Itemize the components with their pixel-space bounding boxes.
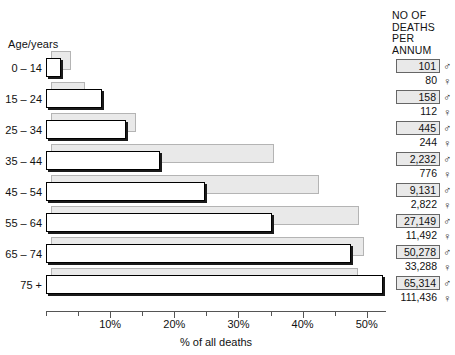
x-axis-tick [335, 311, 336, 316]
header-line-1: NO OF [392, 10, 455, 22]
x-axis-tick [174, 311, 175, 318]
deaths-per-annum-column: NO OF DEATHS PER ANNUM 101♂80♀158♂112♀44… [392, 10, 455, 56]
deaths-row-female: 80♀ [392, 73, 455, 88]
female-symbol-icon: ♀ [443, 106, 455, 118]
deaths-row-female: 2,822♀ [392, 197, 455, 212]
bar-male [46, 120, 126, 139]
plot-area [46, 52, 386, 302]
deaths-row-male: 9,131♂ [392, 182, 455, 197]
category-label: 15 – 24 [0, 93, 42, 105]
bar-male [46, 244, 351, 263]
category-label: 65 – 74 [0, 248, 42, 260]
deaths-row-female: 11,492♀ [392, 228, 455, 243]
x-axis-tick [238, 311, 239, 318]
female-deaths-value: 80 [396, 74, 440, 88]
x-axis-tick-label: 20% [163, 318, 185, 330]
male-deaths-value: 9,131 [396, 183, 440, 197]
x-axis-tick [271, 311, 272, 316]
deaths-column-header: NO OF DEATHS PER ANNUM [392, 10, 455, 56]
female-deaths-value: 244 [396, 136, 440, 150]
category-label: 75 + [0, 279, 42, 291]
deaths-row-male: 50,278♂ [392, 244, 455, 259]
category-label: 25 – 34 [0, 124, 42, 136]
male-deaths-value: 50,278 [396, 245, 440, 259]
female-symbol-icon: ♀ [443, 230, 455, 242]
header-line-4: ANNUM [392, 45, 455, 57]
x-axis-tick [78, 311, 79, 316]
deaths-row-male: 65,314♂ [392, 275, 455, 290]
x-axis-tick [46, 311, 47, 316]
male-symbol-icon: ♂ [443, 277, 455, 289]
male-symbol-icon: ♂ [443, 184, 455, 196]
x-axis-tick-label: 10% [99, 318, 121, 330]
category-label: 55 – 64 [0, 217, 42, 229]
bar-male [46, 151, 160, 170]
male-deaths-value: 158 [396, 90, 440, 104]
bar-male [46, 182, 205, 201]
bar-male [46, 58, 61, 77]
female-symbol-icon: ♀ [443, 137, 455, 149]
category-label: 0 – 14 [0, 62, 42, 74]
x-axis-tick-label: 30% [227, 318, 249, 330]
female-deaths-value: 112 [396, 105, 440, 119]
female-deaths-value: 776 [396, 167, 440, 181]
male-symbol-icon: ♂ [443, 60, 455, 72]
x-axis-tick [142, 311, 143, 316]
category-label: 45 – 54 [0, 186, 42, 198]
y-axis-title: Age/years [8, 38, 58, 50]
male-deaths-value: 445 [396, 121, 440, 135]
male-deaths-value: 65,314 [396, 276, 440, 290]
x-axis-tick [303, 311, 304, 318]
male-symbol-icon: ♂ [443, 91, 455, 103]
x-axis-tick [206, 311, 207, 316]
female-symbol-icon: ♀ [443, 292, 455, 304]
bar-male [46, 89, 102, 108]
deaths-row-male: 27,149♂ [392, 213, 455, 228]
deaths-row-female: 112♀ [392, 104, 455, 119]
deaths-row-male: 101♂ [392, 58, 455, 73]
female-symbol-icon: ♀ [443, 199, 455, 211]
x-axis-title: % of all deaths [46, 336, 386, 348]
x-axis-tick-label: 50% [356, 318, 378, 330]
female-deaths-value: 2,822 [396, 198, 440, 212]
deaths-row-female: 776♀ [392, 166, 455, 181]
deaths-row-male: 445♂ [392, 120, 455, 135]
male-symbol-icon: ♂ [443, 122, 455, 134]
male-deaths-value: 27,149 [396, 214, 440, 228]
female-symbol-icon: ♀ [443, 261, 455, 273]
deaths-row-female: 111,436♀ [392, 290, 455, 305]
male-symbol-icon: ♂ [443, 215, 455, 227]
deaths-row-female: 244♀ [392, 135, 455, 150]
female-deaths-value: 33,288 [396, 260, 440, 274]
x-axis-tick [367, 311, 368, 318]
x-axis-tick-label: 40% [292, 318, 314, 330]
female-symbol-icon: ♀ [443, 75, 455, 87]
deaths-row-male: 158♂ [392, 89, 455, 104]
female-deaths-value: 111,436 [396, 291, 440, 305]
female-deaths-value: 11,492 [396, 229, 440, 243]
female-symbol-icon: ♀ [443, 168, 455, 180]
x-axis-tick [110, 311, 111, 318]
male-deaths-value: 2,232 [396, 152, 440, 166]
bar-male [46, 275, 383, 294]
male-symbol-icon: ♂ [443, 153, 455, 165]
deaths-row-male: 2,232♂ [392, 151, 455, 166]
death-rate-bar-chart: Age/years 0 – 1415 – 2425 – 3435 – 4445 … [0, 0, 455, 355]
header-line-3: PER [392, 33, 455, 45]
bar-male [46, 213, 272, 232]
male-deaths-value: 101 [396, 59, 440, 73]
deaths-row-female: 33,288♀ [392, 259, 455, 274]
male-symbol-icon: ♂ [443, 246, 455, 258]
category-label: 35 – 44 [0, 155, 42, 167]
